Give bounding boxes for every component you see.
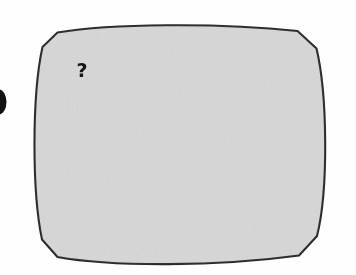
- figure-canvas: ?: [0, 0, 356, 275]
- clipped-dot-icon: [0, 90, 7, 115]
- question-mark-annotation: ?: [71, 57, 93, 83]
- figure-illustration: [0, 0, 356, 275]
